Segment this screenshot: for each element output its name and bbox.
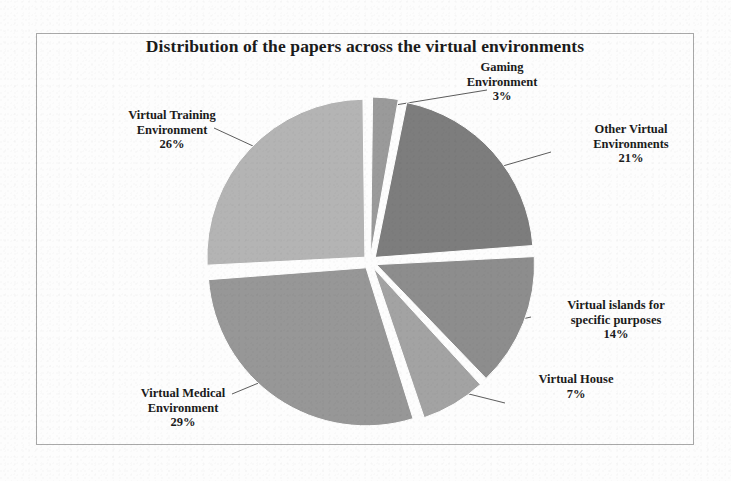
pie-label-gaming-environment-percent: 3% bbox=[432, 89, 572, 104]
pie-label-virtual-medical-environment: Virtual Medical Environment 29% bbox=[100, 386, 266, 430]
pie-label-virtual-house-line1: Virtual House bbox=[500, 372, 652, 387]
pie-slice-other-virtual-environments[interactable] bbox=[375, 103, 533, 258]
pie-label-other-virtual-environments-percent: 21% bbox=[552, 151, 710, 166]
pie-label-virtual-medical-environment-line1: Virtual Medical bbox=[100, 386, 266, 401]
pie-label-virtual-training-environment-line2: Environment bbox=[92, 123, 252, 138]
pie-label-virtual-medical-environment-percent: 29% bbox=[100, 415, 266, 430]
pie-label-virtual-medical-environment-line2: Environment bbox=[100, 401, 266, 416]
pie-label-virtual-islands: Virtual islands for specific purposes 14… bbox=[528, 298, 704, 342]
pie-label-gaming-environment: Gaming Environment 3% bbox=[432, 60, 572, 104]
pie-slices-group bbox=[207, 97, 535, 426]
pie-label-other-virtual-environments-line2: Environments bbox=[552, 137, 710, 152]
pie-label-virtual-islands-line2: specific purposes bbox=[528, 313, 704, 328]
pie-label-gaming-environment-line2: Environment bbox=[432, 75, 572, 90]
pie-label-other-virtual-environments: Other Virtual Environments 21% bbox=[552, 122, 710, 166]
pie-label-virtual-training-environment-line1: Virtual Training bbox=[92, 108, 252, 123]
pie-label-virtual-training-environment-percent: 26% bbox=[92, 137, 252, 152]
pie-label-virtual-house-percent: 7% bbox=[500, 387, 652, 402]
pie-label-virtual-islands-percent: 14% bbox=[528, 327, 704, 342]
pie-label-virtual-house: Virtual House 7% bbox=[500, 372, 652, 401]
pie-label-other-virtual-environments-line1: Other Virtual bbox=[552, 122, 710, 137]
figure-root: Distribution of the papers across the vi… bbox=[0, 0, 731, 481]
pie-label-gaming-environment-line1: Gaming bbox=[432, 60, 572, 75]
pie-label-virtual-training-environment: Virtual Training Environment 26% bbox=[92, 108, 252, 152]
pie-label-virtual-islands-line1: Virtual islands for bbox=[528, 298, 704, 313]
